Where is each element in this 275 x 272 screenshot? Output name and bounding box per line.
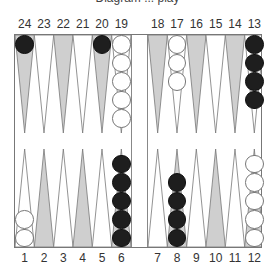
black-checker[interactable]	[168, 192, 187, 211]
point-label: 23	[34, 17, 54, 31]
white-checker[interactable]	[112, 54, 131, 73]
point-label: 3	[53, 251, 73, 265]
point-11[interactable]	[225, 149, 244, 247]
black-checker[interactable]	[112, 173, 131, 192]
point-10[interactable]	[206, 149, 225, 247]
point-9[interactable]	[187, 149, 206, 247]
point-label: 21	[73, 17, 93, 31]
white-checker[interactable]	[168, 54, 187, 73]
white-checker[interactable]	[245, 229, 264, 248]
black-checker[interactable]	[168, 173, 187, 192]
point-14[interactable]	[225, 35, 244, 133]
caption: Diagram ... play	[0, 0, 275, 5]
point-label: 22	[53, 17, 73, 31]
point-label: 10	[206, 251, 226, 265]
black-checker[interactable]	[245, 35, 264, 54]
point-2[interactable]	[34, 149, 53, 247]
point-label: 4	[73, 251, 93, 265]
point-label: 24	[15, 17, 35, 31]
black-checker[interactable]	[168, 210, 187, 229]
white-checker[interactable]	[168, 72, 187, 91]
point-16[interactable]	[187, 35, 206, 133]
point-label: 5	[92, 251, 112, 265]
black-checker[interactable]	[15, 35, 34, 54]
white-checker[interactable]	[245, 155, 264, 174]
black-checker[interactable]	[112, 155, 131, 174]
black-checker[interactable]	[112, 229, 131, 248]
point-7[interactable]	[148, 149, 167, 247]
point-label: 11	[225, 251, 245, 265]
black-checker[interactable]	[112, 192, 131, 211]
black-checker[interactable]	[93, 35, 112, 54]
point-23[interactable]	[34, 35, 53, 133]
bar	[131, 35, 148, 247]
black-checker[interactable]	[245, 72, 264, 91]
point-5[interactable]	[92, 149, 111, 247]
point-label: 18	[148, 17, 168, 31]
point-label: 13	[244, 17, 264, 31]
point-3[interactable]	[54, 149, 73, 247]
white-checker[interactable]	[112, 72, 131, 91]
white-checker[interactable]	[112, 109, 131, 128]
white-checker[interactable]	[15, 210, 34, 229]
point-4[interactable]	[73, 149, 92, 247]
point-label: 9	[186, 251, 206, 265]
point-label: 20	[92, 17, 112, 31]
point-label: 6	[111, 251, 131, 265]
point-label: 14	[225, 17, 245, 31]
point-label: 7	[148, 251, 168, 265]
point-22[interactable]	[54, 35, 73, 133]
white-checker[interactable]	[112, 35, 131, 54]
white-checker[interactable]	[168, 35, 187, 54]
point-label: 15	[206, 17, 226, 31]
backgammon-board	[14, 34, 262, 248]
point-label: 17	[167, 17, 187, 31]
point-15[interactable]	[206, 35, 225, 133]
white-checker[interactable]	[15, 229, 34, 248]
white-checker[interactable]	[245, 192, 264, 211]
point-18[interactable]	[148, 35, 167, 133]
black-checker[interactable]	[112, 210, 131, 229]
point-21[interactable]	[73, 35, 92, 133]
black-checker[interactable]	[245, 91, 264, 110]
point-label: 19	[111, 17, 131, 31]
point-label: 8	[167, 251, 187, 265]
white-checker[interactable]	[245, 173, 264, 192]
white-checker[interactable]	[112, 91, 131, 110]
point-label: 1	[15, 251, 35, 265]
black-checker[interactable]	[168, 229, 187, 248]
white-checker[interactable]	[245, 210, 264, 229]
point-label: 16	[186, 17, 206, 31]
black-checker[interactable]	[245, 54, 264, 73]
point-label: 12	[244, 251, 264, 265]
point-label: 2	[34, 251, 54, 265]
